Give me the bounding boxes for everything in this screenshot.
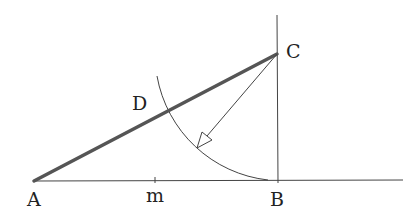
label-a: A [27,190,41,209]
label-d: D [132,94,147,113]
arc [157,76,268,180]
perpendicular-at-b [277,15,278,183]
radius-arrow-shaft [207,54,277,136]
diagram-canvas [0,0,411,219]
baseline [34,180,403,181]
label-m: m [146,186,164,205]
label-c: C [286,42,301,61]
segment-ac [34,54,277,181]
label-b: B [270,190,284,209]
arrowhead-icon [197,132,212,148]
